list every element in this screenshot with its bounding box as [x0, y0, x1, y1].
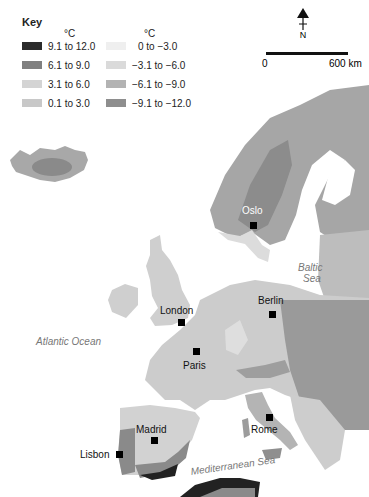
- city-label-lisbon: Lisbon: [80, 449, 109, 460]
- city-label-paris: Paris: [183, 360, 206, 371]
- legend-unit-right: °C: [144, 28, 155, 39]
- city-marker-london: [178, 319, 185, 326]
- city-label-oslo: Oslo: [242, 205, 263, 216]
- legend-label: 0.1 to 3.0: [48, 98, 90, 109]
- legend-item: 3.1 to 6.0: [22, 78, 90, 90]
- legend-item: −9.1 to −12.0: [106, 97, 191, 109]
- sea-label-baltic-1: Baltic: [298, 262, 322, 273]
- italy: [245, 392, 298, 450]
- north-arrow: N: [293, 8, 313, 40]
- legend-title: Key: [22, 16, 42, 28]
- iberia: [118, 405, 200, 480]
- city-marker-berlin: [269, 311, 276, 318]
- legend-swatch: [22, 80, 42, 88]
- legend-label: 6.1 to 9.0: [48, 60, 90, 71]
- sea-label-baltic-2: Sea: [303, 273, 321, 284]
- legend-label: 9.1 to 12.0: [48, 41, 95, 52]
- legend-label: 3.1 to 6.0: [48, 79, 90, 90]
- legend-item: 0 to −3.0: [106, 40, 177, 52]
- legend-item: −6.1 to −9.0: [106, 78, 185, 90]
- scale-line: [266, 52, 348, 55]
- legend-label: −9.1 to −12.0: [132, 98, 191, 109]
- iceland: [10, 146, 88, 182]
- legend-item: −3.1 to −6.0: [106, 59, 185, 71]
- city-marker-paris: [193, 348, 200, 355]
- city-marker-lisbon: [116, 451, 123, 458]
- legend-unit-left: °C: [64, 28, 75, 39]
- sardinia: [242, 418, 250, 438]
- temperature-map: [0, 0, 369, 497]
- legend-swatch: [106, 80, 126, 88]
- sea-label-atlantic: Atlantic Ocean: [36, 336, 101, 347]
- city-label-london: London: [160, 305, 193, 316]
- legend-item: 6.1 to 9.0: [22, 59, 90, 71]
- legend-swatch: [106, 61, 126, 69]
- city-label-berlin: Berlin: [258, 295, 284, 306]
- scale-bar: 0 600 km: [266, 52, 348, 55]
- legend-item: 0.1 to 3.0: [22, 97, 90, 109]
- legend-label: 0 to −3.0: [138, 41, 177, 52]
- baltic-states: [318, 230, 369, 300]
- legend-item: 9.1 to 12.0: [22, 40, 95, 52]
- legend-swatch: [106, 42, 126, 50]
- city-label-madrid: Madrid: [136, 424, 167, 435]
- scale-end: 600 km: [329, 58, 362, 69]
- legend-swatch: [22, 99, 42, 107]
- legend-swatch: [22, 42, 42, 50]
- legend-swatch: [106, 99, 126, 107]
- legend-label: −3.1 to −6.0: [132, 60, 185, 71]
- city-marker-oslo: [250, 222, 257, 229]
- city-label-rome: Rome: [251, 424, 278, 435]
- legend-label: −6.1 to −9.0: [132, 79, 185, 90]
- legend-swatch: [22, 61, 42, 69]
- city-marker-rome: [266, 414, 273, 421]
- city-marker-madrid: [151, 437, 158, 444]
- scale-start: 0: [262, 58, 268, 69]
